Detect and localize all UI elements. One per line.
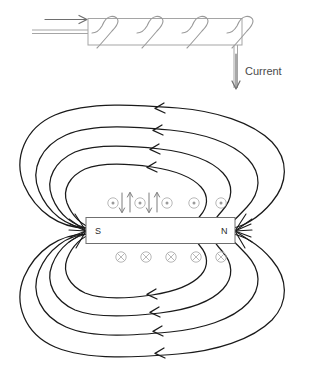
charge-row-into-page xyxy=(116,252,226,262)
field-line-top-2 xyxy=(50,146,231,228)
north-pole-label: N xyxy=(221,226,228,236)
field-arrowhead-top-3 xyxy=(153,125,163,135)
spin-arrow-down-icon xyxy=(119,193,124,213)
input-current-arrow-icon xyxy=(45,16,87,24)
charge-cross-symbol xyxy=(141,252,151,262)
spin-arrow-up-icon xyxy=(127,192,132,212)
charge-dot-symbol xyxy=(108,198,118,208)
current-direction-arrow-icon xyxy=(232,54,240,89)
charge-cross-symbol xyxy=(116,252,126,262)
spin-arrow-down-icon xyxy=(146,193,151,213)
bar-magnet: S N xyxy=(86,218,235,244)
magnetic-field-diagram: Current xyxy=(0,0,322,372)
field-lines-top xyxy=(20,103,284,228)
charge-row-out-of-page xyxy=(108,198,226,208)
pole-fringe-lines-north xyxy=(235,214,252,248)
charge-dot-symbol xyxy=(189,198,199,208)
current-label: Current xyxy=(245,65,282,77)
spin-arrow-up-icon xyxy=(154,192,159,212)
field-line-top-3 xyxy=(36,127,258,228)
charge-cross-symbol xyxy=(166,252,176,262)
bar-magnet-body xyxy=(86,218,235,244)
field-arrowhead-bottom-3 xyxy=(153,326,163,336)
charge-cross-symbol xyxy=(191,252,201,262)
charge-cross-symbol xyxy=(216,252,226,262)
field-arrowhead-top-4 xyxy=(155,103,165,113)
input-lead-wire xyxy=(32,30,92,34)
field-arrowhead-bottom-2 xyxy=(150,307,160,317)
charge-dot-symbol xyxy=(135,198,145,208)
south-pole-label: S xyxy=(95,226,101,236)
field-lines-bottom xyxy=(20,234,284,358)
charge-dot-symbol xyxy=(216,198,226,208)
charge-dot-symbol xyxy=(162,198,172,208)
field-line-bottom-3 xyxy=(36,234,258,335)
field-arrowhead-bottom-4 xyxy=(155,348,165,358)
solenoid-assembly: Current xyxy=(32,16,282,90)
